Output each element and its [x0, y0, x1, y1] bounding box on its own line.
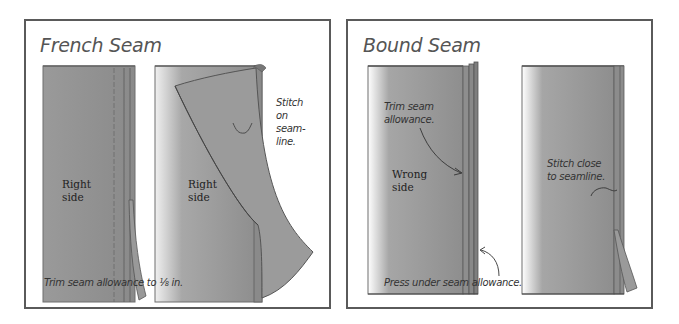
bound-seam-caption: Press under seam allowance.	[384, 276, 522, 289]
bound-seam-step1-fabric	[368, 62, 499, 294]
bound-seam-step1-label: Wrong side	[392, 168, 427, 194]
bound-seam-title: Bound Seam	[363, 34, 481, 56]
trim-seam-allowance-callout: Trim seam allowance.	[384, 100, 434, 126]
french-seam-step1-fabric	[43, 66, 146, 302]
french-seam-step1-label: Right side	[62, 178, 91, 204]
french-seam-step2-label: Right side	[188, 178, 217, 204]
french-seam-caption: Trim seam allowance to ⅛ in.	[44, 276, 183, 289]
stitch-on-seamline-callout: Stitch on seam- line.	[276, 96, 305, 148]
stitch-close-callout: Stitch close to seamline.	[547, 157, 605, 183]
french-seam-title: French Seam	[40, 34, 162, 56]
